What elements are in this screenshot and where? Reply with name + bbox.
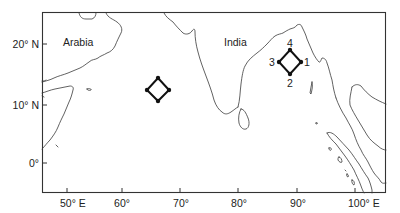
array-arabian-sea-outline: [147, 78, 169, 101]
island-mentawai-2: [347, 174, 349, 177]
array-arabian-sea: [145, 76, 171, 103]
island-andaman: [310, 82, 312, 94]
lon-label-70e: 70°: [173, 197, 189, 209]
region-label-india: India: [224, 36, 247, 48]
lon-label-100e: 100° E: [348, 197, 380, 209]
array-node: [156, 76, 160, 80]
array-label-4: 4: [287, 37, 293, 49]
lon-label-80e: 80°: [231, 197, 247, 209]
island-nicobar: [316, 123, 317, 124]
lat-label-10n: 10° N: [13, 99, 39, 111]
array-bay-of-bengal-outline: [279, 50, 301, 74]
array-bay-of-bengal: 1 2 3 4: [269, 37, 310, 89]
lon-label-50e: 50° E: [60, 197, 86, 209]
coast-malay-peninsula: [336, 98, 386, 183]
coast-gulf-of-thailand-inner: [350, 87, 386, 150]
array-label-3: 3: [269, 56, 275, 68]
island-simeulue: [329, 148, 331, 151]
coast-persian-gulf: [79, 13, 96, 19]
array-node: [156, 99, 160, 103]
coast-horn-of-africa: [42, 86, 73, 149]
lon-label-60e: 60°: [114, 197, 130, 209]
indian-ocean-map: 20° N 10° N 0° 50° E 60° 70° 80° 90° 100…: [0, 0, 400, 213]
island-small-africa: [56, 145, 58, 147]
array-node: [167, 88, 171, 92]
island-sumatra: [327, 132, 372, 193]
island-socotra: [87, 89, 91, 91]
array-node-1: [299, 60, 303, 64]
island-nias: [338, 157, 342, 162]
array-node-3: [277, 60, 281, 64]
region-label-arabia: Arabia: [63, 36, 94, 48]
island-mentawai-1: [345, 170, 346, 171]
island-sri-lanka: [239, 109, 249, 129]
island-mentawai-3: [352, 180, 355, 185]
lat-label-20n: 20° N: [13, 38, 39, 50]
array-node-2: [288, 72, 292, 76]
lon-label-90e: 90°: [290, 197, 306, 209]
array-label-1: 1: [304, 56, 310, 68]
coast-gulf-of-thailand: [352, 85, 386, 104]
array-node: [145, 88, 149, 92]
coast-india-west: [164, 13, 238, 114]
array-label-2: 2: [287, 77, 293, 89]
lat-label-0: 0°: [29, 157, 39, 169]
map-frame: [43, 13, 386, 193]
